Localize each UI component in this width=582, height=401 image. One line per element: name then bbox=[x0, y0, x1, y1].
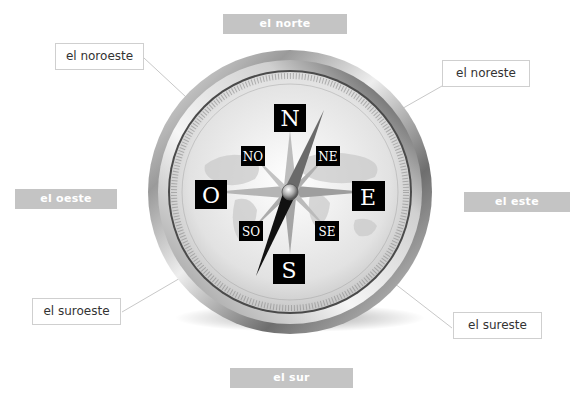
marker-o: O bbox=[195, 180, 227, 209]
label-southeast: el sureste bbox=[453, 312, 542, 339]
marker-se: SE bbox=[315, 221, 339, 241]
label-northeast: el noreste bbox=[442, 60, 530, 87]
marker-no: NO bbox=[241, 146, 265, 166]
label-south: el sur bbox=[230, 368, 353, 388]
marker-n: N bbox=[274, 104, 306, 132]
label-north: el norte bbox=[223, 14, 347, 34]
svg-text:NE: NE bbox=[318, 150, 337, 164]
compass-diagram: N S O E NO NE SO SE el no bbox=[0, 0, 582, 401]
label-northwest: el noroeste bbox=[55, 43, 144, 70]
svg-text:S: S bbox=[281, 258, 296, 283]
label-west: el oeste bbox=[15, 189, 117, 209]
svg-text:SE: SE bbox=[319, 225, 336, 239]
marker-e: E bbox=[352, 181, 385, 211]
marker-s: S bbox=[273, 254, 305, 284]
svg-text:NO: NO bbox=[243, 150, 264, 164]
svg-text:E: E bbox=[360, 185, 376, 210]
label-southwest: el suroeste bbox=[32, 298, 121, 325]
marker-so: SO bbox=[239, 221, 263, 241]
marker-ne: NE bbox=[316, 146, 340, 166]
needle-pivot bbox=[282, 184, 298, 200]
svg-text:O: O bbox=[202, 183, 220, 208]
svg-text:N: N bbox=[280, 106, 299, 131]
label-east: el este bbox=[464, 192, 570, 212]
svg-text:SO: SO bbox=[242, 225, 260, 239]
